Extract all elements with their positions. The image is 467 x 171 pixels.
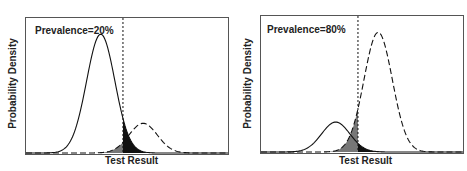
y-axis-label: Probability Density	[7, 34, 18, 134]
shaded-error-region	[123, 118, 228, 153]
x-axis-label: Test Result	[339, 155, 392, 166]
chart-panel-prevalence-80: Prevalence=80% Probability Density Test …	[235, 0, 467, 171]
x-axis-label: Test Result	[105, 155, 158, 166]
prevalence-annotation: Prevalence=20%	[35, 25, 114, 36]
chart-panel-prevalence-20: Prevalence=20% Probability Density Test …	[0, 0, 235, 171]
diseased-curve	[261, 32, 463, 152]
prevalence-annotation: Prevalence=80%	[267, 24, 346, 35]
y-axis-label: Probability Density	[242, 34, 253, 134]
